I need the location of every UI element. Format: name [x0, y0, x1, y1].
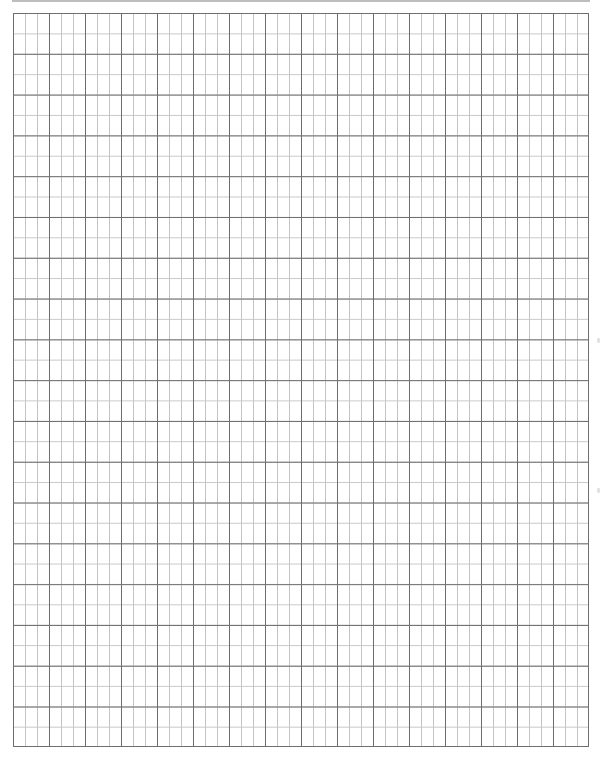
- paper-speck: [540, 464, 542, 466]
- top-rule: [12, 0, 590, 2]
- paper-speck: [597, 338, 600, 343]
- paper-speck: [597, 488, 600, 493]
- graph-paper-grid: [13, 13, 589, 747]
